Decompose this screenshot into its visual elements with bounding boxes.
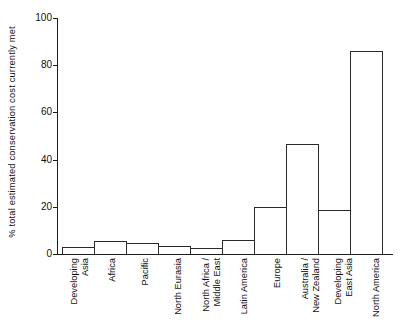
bar-6: [254, 207, 287, 254]
y-tick-label-40: 40: [26, 155, 52, 165]
x-tick-label-cell-2: Pacific: [128, 258, 161, 335]
x-tick-label-cell-9: North America: [359, 258, 392, 335]
bar-8: [318, 210, 351, 254]
bar-2: [126, 243, 159, 254]
y-axis-line: [57, 18, 58, 255]
y-axis-tick-labels: 020406080100: [22, 0, 52, 335]
x-tick-label-5: Latin America: [238, 258, 249, 314]
y-tick-mark-40: [53, 160, 57, 161]
bar-1: [94, 241, 127, 254]
y-tick-mark-100: [53, 18, 57, 19]
y-tick-mark-80: [53, 65, 57, 66]
x-axis-tick-labels: DevelopingAsiaAfricaPacificNorth Eurasia…: [62, 258, 392, 335]
y-tick-label-60: 60: [26, 107, 52, 117]
x-tick-label-0: DevelopingAsia: [68, 258, 89, 305]
x-tick-label-4: North Africa /Middle East: [200, 258, 221, 312]
x-tick-label-cell-3: North Eurasia: [161, 258, 194, 335]
bar-3: [158, 246, 191, 254]
bar-chart-figure: % total estimated conservation cost curr…: [0, 0, 400, 335]
y-tick-mark-60: [53, 112, 57, 113]
y-tick-label-100: 100: [26, 13, 52, 23]
x-axis-line: [57, 254, 393, 255]
x-tick-label-8: DevelopingEast Asia: [332, 258, 353, 305]
x-tick-label-cell-6: Europe: [260, 258, 293, 335]
x-tick-label-cell-4: North Africa /Middle East: [194, 258, 227, 335]
x-tick-label-6: Europe: [271, 258, 282, 288]
y-axis-label: % total estimated conservation cost curr…: [4, 2, 20, 262]
bar-4: [190, 248, 223, 254]
x-tick-label-3: North Eurasia: [172, 258, 183, 315]
x-tick-label-1: Africa: [106, 258, 117, 282]
bar-7: [286, 144, 319, 254]
bar-series: [62, 18, 392, 254]
y-tick-label-80: 80: [26, 60, 52, 70]
y-tick-label-20: 20: [26, 202, 52, 212]
bar-5: [222, 240, 255, 254]
bar-9: [350, 51, 383, 254]
x-tick-label-9: North America: [370, 258, 381, 317]
x-tick-label-7: Australia /New Zealand: [299, 258, 320, 313]
x-tick-label-cell-8: DevelopingEast Asia: [326, 258, 359, 335]
x-tick-label-cell-7: Australia /New Zealand: [293, 258, 326, 335]
y-tick-label-0: 0: [26, 249, 52, 259]
x-tick-label-2: Pacific: [139, 258, 150, 285]
x-tick-label-cell-0: DevelopingAsia: [62, 258, 95, 335]
x-tick-label-cell-5: Latin America: [227, 258, 260, 335]
y-tick-mark-0: [53, 254, 57, 255]
bar-0: [62, 247, 95, 254]
y-tick-mark-20: [53, 207, 57, 208]
plot-area: [57, 18, 393, 255]
x-tick-label-cell-1: Africa: [95, 258, 128, 335]
